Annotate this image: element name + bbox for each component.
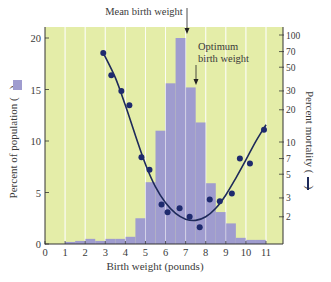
y-right-tick-label: 3 bbox=[286, 193, 291, 203]
mortality-point bbox=[177, 205, 183, 211]
mortality-point bbox=[247, 160, 253, 166]
y-right-tick-label: 30 bbox=[286, 86, 296, 96]
histogram-bar bbox=[216, 212, 226, 244]
mortality-point bbox=[146, 167, 152, 173]
histogram-bar bbox=[135, 218, 145, 244]
histogram-bar bbox=[236, 238, 246, 244]
mortality-point bbox=[207, 197, 213, 203]
histogram-bar bbox=[125, 237, 135, 244]
legend-bar-swatch-icon bbox=[13, 80, 22, 90]
y-right-tick-label: 7 bbox=[286, 154, 291, 164]
mortality-point bbox=[108, 72, 114, 78]
y-right-tick-label: 50 bbox=[286, 63, 296, 73]
histogram-bar bbox=[176, 38, 186, 244]
x-tick-label: 5 bbox=[143, 247, 148, 258]
mortality-point bbox=[159, 202, 165, 208]
mortality-point bbox=[197, 224, 203, 230]
x-tick-label: 4 bbox=[123, 247, 129, 258]
mortality-point bbox=[237, 156, 243, 162]
y-right-tick-label: 5 bbox=[286, 170, 291, 180]
mortality-point bbox=[165, 209, 171, 215]
y-right-tick-label: 70 bbox=[286, 47, 296, 57]
histogram-bar bbox=[115, 239, 125, 244]
x-axis-label: Birth weight (pounds) bbox=[106, 260, 203, 273]
optimum-annotation-line1: Optimum bbox=[198, 41, 238, 52]
y-axis-left-label: Percent of population () bbox=[7, 85, 20, 198]
mortality-point bbox=[118, 88, 124, 94]
x-tick-label: 9 bbox=[223, 247, 228, 258]
x-tick-label: 6 bbox=[163, 247, 168, 258]
svg-text:Percent of population (): Percent of population () bbox=[7, 85, 20, 198]
x-tick-label: 2 bbox=[83, 247, 88, 258]
histogram-bar bbox=[226, 223, 236, 244]
histogram-bar bbox=[246, 240, 256, 244]
svg-text:Percent mortality (): Percent mortality () bbox=[303, 91, 316, 189]
x-tick-label: 0 bbox=[42, 247, 47, 258]
y-left-label-text: Percent of population ( bbox=[7, 97, 20, 198]
y-right-label-text: Percent mortality ( bbox=[303, 91, 316, 174]
mortality-point bbox=[187, 214, 193, 220]
histogram-bar bbox=[105, 239, 115, 244]
histogram-bar bbox=[166, 83, 176, 244]
y-tick-label: 10 bbox=[31, 136, 42, 147]
histogram-bar bbox=[85, 239, 95, 244]
mortality-point bbox=[217, 198, 223, 204]
y-right-tick-label: 2 bbox=[286, 212, 291, 222]
mortality-point bbox=[229, 191, 235, 197]
histogram-bar bbox=[156, 131, 166, 244]
mortality-point bbox=[261, 127, 267, 133]
y-right-tick-label: 10 bbox=[286, 138, 296, 148]
mortality-point bbox=[100, 50, 106, 56]
x-tick-label: 8 bbox=[203, 247, 208, 258]
histogram-bar bbox=[145, 182, 155, 244]
histogram-bar bbox=[256, 240, 266, 244]
y-right-label-close: ) bbox=[303, 185, 316, 189]
x-tick-label: 10 bbox=[241, 247, 252, 258]
mortality-point bbox=[138, 154, 144, 160]
mortality-point bbox=[126, 102, 132, 108]
x-tick-label: 3 bbox=[103, 247, 108, 258]
y-tick-label: 0 bbox=[36, 239, 41, 250]
x-tick-label: 11 bbox=[261, 247, 271, 258]
y-axis-right-label: Percent mortality () bbox=[303, 91, 316, 189]
optimum-annotation-line2: birth weight bbox=[198, 53, 249, 64]
x-tick-label: 1 bbox=[62, 247, 67, 258]
x-tick-label: 7 bbox=[183, 247, 188, 258]
y-tick-label: 20 bbox=[31, 33, 42, 44]
y-right-tick-label: 100 bbox=[286, 31, 301, 41]
y-right-tick-label: 20 bbox=[286, 105, 296, 115]
y-tick-label: 5 bbox=[36, 188, 41, 199]
y-tick-label: 15 bbox=[31, 85, 42, 96]
mean-birth-weight-annotation: Mean birth weight bbox=[105, 6, 183, 17]
birth-weight-chart: 01234567891011 05101520 2357102030507010… bbox=[0, 0, 331, 282]
